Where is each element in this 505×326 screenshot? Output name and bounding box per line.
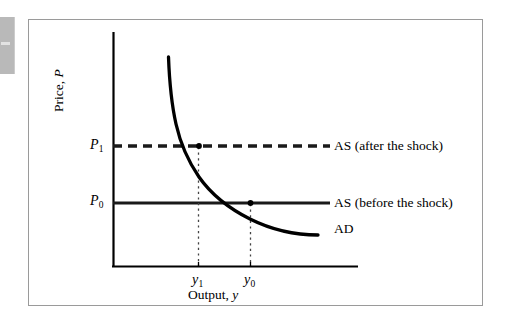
- output-tick-y1-base: y: [192, 272, 198, 287]
- legend-label-ad: AD: [334, 222, 354, 236]
- price-tick-label-p1: P1: [90, 138, 103, 152]
- output-tick-y0-base: y: [244, 272, 250, 287]
- legend-label-as-before-shock: AS (before the shock): [334, 196, 453, 210]
- equilibrium-point-before-shock: [248, 200, 254, 206]
- price-tick-p0-sub: 0: [99, 200, 104, 210]
- x-axis-title-text: Output,: [188, 287, 232, 302]
- y-axis-title-text: Price,: [51, 78, 66, 113]
- figure-root: Price, P P1 P0 y1 y0 Output, y AS (after…: [0, 0, 505, 326]
- x-axis-title: Output, y: [188, 288, 238, 302]
- equilibrium-point-after-shock: [196, 143, 202, 149]
- output-tick-label-y0: y0: [244, 273, 255, 287]
- price-tick-p0-base: P: [90, 193, 99, 208]
- legend-label-as-after-shock: AS (after the shock): [334, 139, 443, 153]
- y-axis-title-symbol: P: [51, 69, 66, 77]
- output-tick-label-y1: y1: [192, 273, 203, 287]
- output-tick-y0-sub: 0: [251, 279, 256, 289]
- price-tick-p1-base: P: [90, 137, 99, 152]
- y-axis-title: Price, P: [51, 69, 67, 112]
- price-tick-p1-sub: 1: [99, 144, 104, 154]
- x-axis-title-symbol: y: [232, 287, 238, 302]
- price-tick-label-p0: P0: [90, 194, 103, 208]
